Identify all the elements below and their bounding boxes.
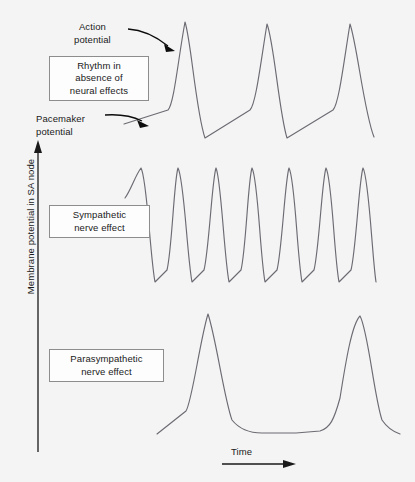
panel-label-sympathetic: Sympathetic nerve effect bbox=[49, 205, 150, 238]
trace-parasympathetic bbox=[157, 314, 400, 434]
trace-sympathetic bbox=[125, 168, 376, 282]
action-potential-leader-arrow bbox=[128, 29, 175, 52]
trace-rhythm bbox=[124, 22, 374, 138]
panel-label-rhythm: Rhythm in absence of neural effects bbox=[49, 56, 149, 101]
x-axis-time-arrow bbox=[222, 460, 296, 468]
pacemaker-potential-leader-arrow bbox=[105, 115, 149, 128]
pacemaker-potential-figure: Action potential Pacemaker potential Rhy… bbox=[0, 0, 415, 482]
panel-label-parasympathetic: Parasympathetic nerve effect bbox=[49, 349, 164, 382]
x-axis-label: Time bbox=[231, 446, 252, 459]
action-potential-annotation: Action potential bbox=[74, 21, 111, 46]
pacemaker-potential-annotation: Pacemaker potential bbox=[36, 113, 85, 138]
y-axis-label: Membrane potential in SA node bbox=[25, 147, 36, 307]
